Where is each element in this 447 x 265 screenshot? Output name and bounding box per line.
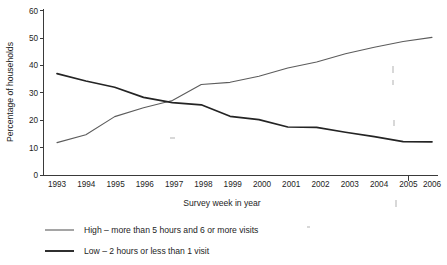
x-tick-label: 1993	[48, 180, 67, 189]
x-tick-label: 1997	[165, 180, 184, 189]
x-tick-label: 2000	[253, 180, 272, 189]
x-tick-label: 1998	[194, 180, 213, 189]
chart-figure: 60 50 40 30 20 10	[0, 0, 447, 265]
x-tick-label: 1995	[106, 180, 125, 189]
x-tick-label: 2002	[311, 180, 330, 189]
x-tick-label: 2003	[341, 180, 360, 189]
x-axis: 1993 1994 1995 1996 1997 1998 1999 2000 …	[48, 176, 442, 209]
y-tick-label: 40	[29, 61, 39, 70]
y-tick-label: 60	[29, 7, 39, 16]
series-line-low	[57, 74, 432, 142]
y-tick-0: 0	[33, 171, 43, 180]
y-tick-40: 40	[29, 61, 44, 70]
x-tick-label: 2005	[399, 180, 418, 189]
y-tick-20: 20	[29, 116, 44, 125]
series-line-high	[57, 37, 432, 142]
y-tick-label: 0	[33, 171, 38, 180]
y-axis-title: Percentage of households	[5, 42, 15, 142]
x-tick-label: 1996	[136, 180, 155, 189]
chart-legend: High – more than 5 hours and 6 or more v…	[45, 225, 258, 256]
legend-label-high: High – more than 5 hours and 6 or more v…	[84, 225, 258, 235]
series-group	[57, 37, 432, 142]
y-tick-label: 10	[29, 144, 39, 153]
y-tick-50: 50	[29, 34, 44, 43]
x-tick-label: 2006	[423, 180, 442, 189]
y-tick-60: 60	[29, 7, 44, 16]
legend-label-low: Low – 2 hours or less than 1 visit	[84, 246, 210, 256]
x-tick-label: 2004	[370, 180, 389, 189]
line-chart-svg: 60 50 40 30 20 10	[0, 0, 447, 265]
x-tick-label: 1994	[77, 180, 96, 189]
x-tick-label: 1999	[224, 180, 243, 189]
y-tick-label: 20	[29, 116, 39, 125]
y-tick-10: 10	[29, 144, 44, 153]
chart-axes	[44, 9, 439, 176]
legend-item-low[interactable]: Low – 2 hours or less than 1 visit	[45, 246, 210, 256]
x-tick-label: 2001	[282, 180, 301, 189]
y-tick-label: 30	[29, 89, 39, 98]
y-tick-label: 50	[29, 34, 39, 43]
legend-item-high[interactable]: High – more than 5 hours and 6 or more v…	[45, 225, 258, 235]
y-tick-30: 30	[29, 89, 44, 98]
y-axis: 60 50 40 30 20 10	[5, 7, 44, 181]
x-axis-title: Survey week in year	[183, 198, 261, 208]
